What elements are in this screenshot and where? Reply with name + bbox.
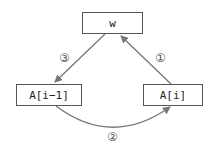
node-a-prev-label: A[i−1]	[29, 89, 69, 102]
node-a-prev: A[i−1]	[16, 84, 82, 106]
step-1-label: ①	[155, 52, 166, 64]
node-a-cur: A[i]	[143, 84, 203, 106]
step-2-label: ②	[107, 131, 118, 143]
edge-2-arrow	[56, 106, 170, 127]
node-w: w	[82, 12, 143, 34]
node-w-label: w	[109, 17, 116, 30]
step-3-label: ③	[59, 52, 70, 64]
node-a-cur-label: A[i]	[160, 89, 187, 102]
